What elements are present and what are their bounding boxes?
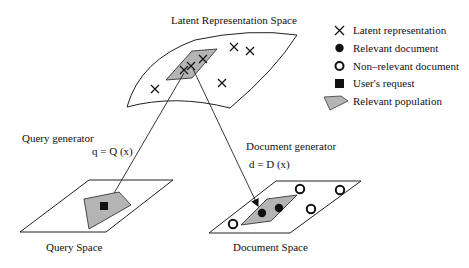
- legend-label-relevant-population: Relevant population: [353, 96, 442, 107]
- latent-space-sheet: [127, 32, 297, 108]
- document-relevant-population: [241, 195, 297, 225]
- latent-space-label: Latent Representation Space: [171, 15, 297, 26]
- query-generator-label: Query generator: [22, 133, 94, 144]
- legend-label-relevant-document: Relevant document: [353, 43, 438, 54]
- document-space-label: Document Space: [233, 242, 308, 253]
- document-generator-formula: d = D (x): [249, 159, 290, 170]
- latent-space-diagram: Latent Representation Space Query genera…: [0, 0, 469, 268]
- query-relevant-population: [84, 192, 131, 229]
- query-space-label: Query Space: [46, 242, 103, 253]
- legend-label-users-request: User's request: [353, 78, 415, 89]
- users-request-square: [100, 202, 108, 210]
- document-generator-label: Document generator: [246, 141, 336, 152]
- legend-label-non-relevant-document: Non–relevant document: [353, 61, 459, 72]
- legend-symbols: [324, 26, 348, 110]
- query-generator-formula: q = Q (x): [92, 146, 133, 157]
- legend-label-latent-representation: Latent representation: [353, 25, 446, 36]
